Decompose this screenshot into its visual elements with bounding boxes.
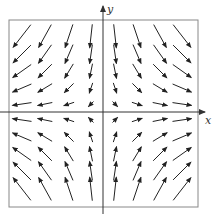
vector-arrow [38,64,52,78]
vector-arrow [38,147,52,161]
vector-arrow [114,147,117,162]
vector-arrow [133,177,141,200]
vector-arrow [173,178,191,201]
vector-arrow [173,65,191,78]
vector-arrow [114,24,117,47]
vector-arrow [132,102,142,105]
vector-arrow [90,64,93,79]
vector-arrow [153,119,168,122]
vector-arrow [65,147,74,161]
vector-arrow [38,119,53,122]
vector-arrow [173,45,191,63]
vector-arrow [173,162,191,180]
vector-arrow [64,118,74,121]
vector-arrow [113,132,116,142]
vector-arrow [153,84,167,93]
vector-arrow [133,24,141,47]
vector-arrow [173,84,192,92]
vector-arrow [154,178,167,201]
vector-arrow [39,25,52,48]
vector-arrow [38,133,52,142]
vector-arrow [154,25,167,48]
vector-arrow [64,132,73,141]
vector-arrow [89,83,92,93]
vector-arrow [133,64,142,78]
vector-arrow [173,25,191,48]
vector-arrow [38,103,53,106]
vector-arrow [153,133,167,142]
vector-arrow [39,45,52,63]
vector-arrow [90,177,93,200]
vector-arrow [89,102,94,107]
vector-arrow [154,162,167,180]
vector-arrow [13,162,31,180]
vector-arrow [173,133,192,141]
vector-arrow [39,178,52,201]
vector-arrow [114,64,117,79]
vector-arrow [90,24,93,47]
vector-arrow [64,102,74,105]
y-axis-label: y [106,3,114,16]
vector-arrow [13,133,32,141]
vector-arrow [13,119,32,122]
vector-arrow [114,177,117,200]
vector-arrow [13,25,31,48]
vector-arrow [13,148,31,161]
vector-arrow [13,45,31,63]
vector-arrow [90,147,93,162]
vector-arrow [13,84,32,92]
vector-arrow [65,162,73,181]
vector-arrow [133,162,141,181]
vector-arrow [113,83,116,93]
vector-arrow [13,178,31,201]
x-axis-label: x [205,114,212,127]
vector-arrow [153,103,168,106]
vector-arrow [132,118,142,121]
vector-arrow [65,45,73,64]
vector-arrow [173,103,192,106]
vector-arrow [89,132,92,142]
vector-arrow [65,177,73,200]
vector-arrow [153,147,167,161]
vector-arrow [132,83,141,92]
vector-arrow [65,64,74,78]
vector-arrow [89,118,94,123]
vector-arrow [113,118,118,123]
vector-arrow [65,24,73,47]
vector-arrow [13,65,31,78]
vector-arrow [113,102,118,107]
vector-arrow [132,132,141,141]
vector-arrow [154,45,167,63]
vector-arrow [173,148,191,161]
vector-arrow [133,45,141,64]
vector-arrow [173,119,192,122]
vector-arrow [38,84,52,93]
vector-arrow [153,64,167,78]
vector-arrow [64,83,73,92]
vector-arrow [13,103,32,106]
vector-arrow [39,162,52,180]
vector-field-plot: x y [0,0,216,222]
vector-arrow [133,147,142,161]
